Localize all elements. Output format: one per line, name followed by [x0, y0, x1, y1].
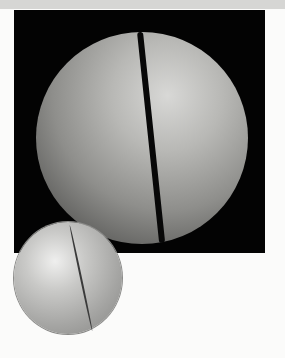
top-border-strip	[0, 0, 285, 9]
small-split-sphere	[14, 222, 122, 334]
sphere-photo	[14, 10, 265, 253]
